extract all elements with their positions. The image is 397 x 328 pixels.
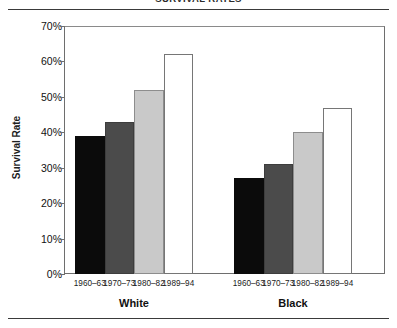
bar-white-1989-94 [164, 54, 194, 274]
bar-white-1970-73 [105, 122, 135, 274]
y-axis-tick-mark [60, 274, 65, 275]
bar-black-1989-94 [323, 108, 353, 275]
bars-layer [64, 26, 385, 274]
y-axis-title: Survival Rate [11, 93, 22, 203]
y-axis-tick-label: 20% [0, 197, 62, 209]
bottom-horizontal-rule [8, 318, 389, 319]
y-axis-tick-label: 0% [0, 268, 62, 280]
y-axis-tick-label: 10% [0, 233, 62, 245]
bar-black-1970-73 [264, 164, 294, 274]
figure-page: SURVIVAL RATES Survival Rate 0%10%20%30%… [0, 0, 397, 328]
bar-black-1960-63 [234, 178, 264, 274]
bar-black-1980-82 [293, 132, 323, 274]
y-axis-tick-label: 70% [0, 20, 62, 32]
x-axis-tick-label: 1989–94 [317, 279, 359, 291]
y-axis-tick-label: 40% [0, 126, 62, 138]
y-axis-tick-label: 50% [0, 91, 62, 103]
y-axis-tick-label: 30% [0, 162, 62, 174]
group-label-white: White [75, 297, 193, 311]
bar-white-1960-63 [75, 136, 105, 274]
bar-white-1980-82 [134, 90, 164, 274]
y-axis-tick-label: 60% [0, 55, 62, 67]
group-label-black: Black [234, 297, 352, 311]
bar-chart: Survival Rate 0%10%20%30%40%50%60%70% 19… [0, 0, 397, 318]
x-axis-tick-label: 1989–94 [158, 279, 200, 291]
